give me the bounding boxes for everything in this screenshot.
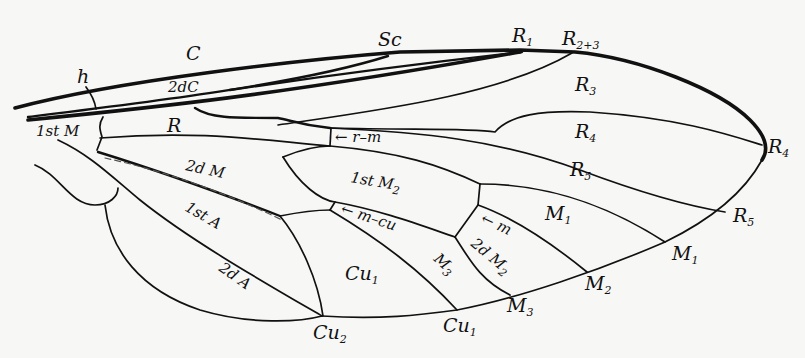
rm-crossvein (330, 128, 331, 146)
label-cu1-cell: Cu1 (345, 262, 379, 287)
media-vein (100, 135, 480, 184)
label-cu1-edge: Cu1 (443, 314, 477, 339)
label-r: R (166, 114, 181, 136)
wing-venation-diagram: h C Sc R1 R2+3 2dC 1st M R R3 R4 R4 ← r–… (0, 0, 805, 358)
label-r1: R1 (511, 24, 533, 49)
label-1st-m: 1st M (36, 122, 80, 140)
r1-vein (230, 52, 522, 90)
label-r5-edge: R5 (732, 204, 754, 229)
label-rm: ← r–m (335, 128, 381, 146)
first-m2-upper (283, 146, 330, 157)
label-m3-cell: M3 (428, 249, 459, 280)
cu-crossvein (280, 210, 330, 216)
label-h: h (77, 65, 89, 87)
mcu-crossvein (330, 202, 335, 210)
label-m2-edge: M2 (584, 272, 611, 297)
rs-vein (195, 108, 330, 128)
label-2d-a: 2d A (215, 258, 255, 293)
label-mcu: ← m–cu (339, 200, 399, 235)
label-m1-cell: M1 (544, 202, 571, 227)
label-r3: R3 (574, 73, 596, 98)
label-r5: R5 (569, 158, 591, 183)
label-r23: R2+3 (561, 27, 600, 52)
radius-vein (28, 52, 520, 120)
cu2-vein (280, 216, 323, 316)
label-m: ← m (478, 209, 514, 239)
label-m3-edge: M3 (506, 294, 533, 319)
label-sc: Sc (378, 28, 402, 50)
r4-vein (330, 112, 762, 145)
1stM-crossvein (97, 117, 103, 150)
label-1st-m2: 1st M2 (349, 168, 402, 197)
label-c: C (186, 42, 201, 64)
label-2d-m: 2d M (183, 156, 227, 182)
label-1st-a: 1st A (182, 198, 225, 233)
label-cu2: Cu2 (313, 321, 347, 346)
r5-vein (330, 128, 725, 212)
label-r4: R4 (574, 120, 596, 145)
label-2d-m2: 2d M2 (465, 234, 515, 280)
label-m1-edge: M1 (671, 242, 698, 267)
label-2dc: 2dC (167, 78, 199, 96)
m-crossvein (455, 205, 478, 237)
label-r4-edge: R4 (767, 135, 789, 160)
